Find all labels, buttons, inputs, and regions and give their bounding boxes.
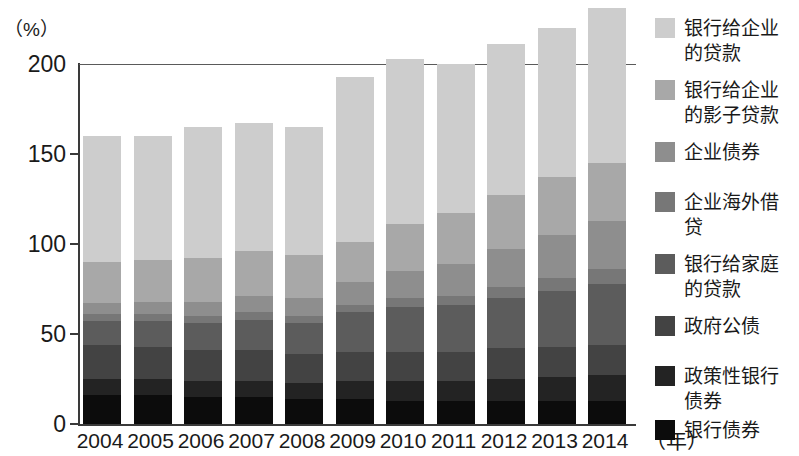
bar-segment bbox=[184, 323, 222, 350]
legend-swatch-overseas-borrowing bbox=[655, 192, 675, 212]
y-tick-label-100: 100 bbox=[4, 233, 66, 256]
bar-segment bbox=[184, 316, 222, 323]
legend-item-shadow-loans-to-enterprises[interactable]: 银行给企业 的影子贷款 bbox=[655, 78, 796, 128]
bar-2008 bbox=[285, 127, 323, 424]
legend-item-overseas-borrowing[interactable]: 企业海外借 贷 bbox=[655, 190, 796, 240]
bar-segment bbox=[184, 127, 222, 258]
bar-segment bbox=[437, 381, 475, 401]
bar-2011 bbox=[437, 64, 475, 424]
bar-2009 bbox=[336, 77, 374, 424]
legend-swatch-shadow-loans-to-enterprises bbox=[655, 80, 675, 100]
x-tick-label-2009: 2009 bbox=[325, 428, 381, 454]
bar-segment bbox=[538, 28, 576, 177]
bar-segment bbox=[588, 221, 626, 270]
y-tick-label-150: 150 bbox=[4, 143, 66, 166]
bar-segment bbox=[336, 399, 374, 424]
x-axis-line bbox=[78, 424, 636, 426]
x-tick-label-2014: 2014 bbox=[577, 428, 633, 454]
bar-segment bbox=[386, 381, 424, 401]
legend-label-bank-loans-to-households: 银行给家庭 的贷款 bbox=[684, 252, 796, 302]
bar-segment bbox=[487, 298, 525, 348]
bar-segment bbox=[235, 296, 273, 312]
x-tick-label-2006: 2006 bbox=[173, 428, 229, 454]
bar-segment bbox=[235, 350, 273, 381]
bar-segment bbox=[386, 352, 424, 381]
y-tick-label-200: 200 bbox=[4, 53, 66, 76]
bar-segment bbox=[386, 271, 424, 298]
bar-segment bbox=[83, 395, 121, 424]
legend-label-shadow-loans-to-enterprises: 银行给企业 的影子贷款 bbox=[684, 78, 796, 128]
legend-label-bank-bonds: 银行债券 bbox=[684, 418, 796, 443]
bar-segment bbox=[134, 379, 172, 395]
bar-segment bbox=[487, 379, 525, 401]
bar-segment bbox=[437, 296, 475, 305]
legend-swatch-bank-loans-to-households bbox=[655, 254, 675, 274]
legend-swatch-corporate-bonds bbox=[655, 142, 675, 162]
bar-2014 bbox=[588, 8, 626, 424]
x-tick-label-2004: 2004 bbox=[72, 428, 128, 454]
bar-2012 bbox=[487, 44, 525, 424]
bar-segment bbox=[235, 123, 273, 251]
x-tick-label-2012: 2012 bbox=[476, 428, 532, 454]
bar-segment bbox=[538, 177, 576, 235]
bar-segment bbox=[336, 77, 374, 243]
bar-segment bbox=[83, 303, 121, 314]
bar-segment bbox=[538, 291, 576, 347]
bar-segment bbox=[386, 307, 424, 352]
bar-segment bbox=[235, 320, 273, 351]
bar-segment bbox=[134, 347, 172, 379]
legend-label-corporate-bonds: 企业债券 bbox=[684, 140, 796, 165]
legend-item-policy-bank-bonds[interactable]: 政策性银行 债券 bbox=[655, 364, 796, 414]
bar-segment bbox=[83, 321, 121, 344]
bar-segment bbox=[235, 312, 273, 319]
bar-segment bbox=[487, 348, 525, 379]
bar-segment bbox=[285, 255, 323, 298]
bar-segment bbox=[487, 249, 525, 287]
bar-segment bbox=[437, 213, 475, 263]
bar-segment bbox=[285, 383, 323, 399]
bar-segment bbox=[83, 379, 121, 395]
x-tick-label-2008: 2008 bbox=[274, 428, 330, 454]
bar-segment bbox=[538, 377, 576, 400]
bar-segment bbox=[83, 262, 121, 303]
legend-label-policy-bank-bonds: 政策性银行 债券 bbox=[684, 364, 796, 414]
bar-segment bbox=[184, 381, 222, 397]
y-tick-label-50: 50 bbox=[4, 323, 66, 346]
bar-segment bbox=[285, 354, 323, 383]
bar-segment bbox=[285, 127, 323, 255]
legend-item-government-bonds[interactable]: 政府公债 bbox=[655, 314, 796, 339]
bar-segment bbox=[437, 264, 475, 296]
x-tick-label-2010: 2010 bbox=[375, 428, 431, 454]
bar-segment bbox=[285, 298, 323, 316]
plot-area bbox=[80, 0, 636, 424]
legend-swatch-bank-bonds bbox=[655, 420, 675, 440]
bar-segment bbox=[487, 44, 525, 195]
x-tick-label-2013: 2013 bbox=[527, 428, 583, 454]
legend-item-corporate-bonds[interactable]: 企业债券 bbox=[655, 140, 796, 165]
bar-segment bbox=[184, 397, 222, 424]
bar-2005 bbox=[134, 136, 172, 424]
bar-segment bbox=[336, 312, 374, 352]
bar-segment bbox=[538, 347, 576, 378]
legend-swatch-bank-loans-to-enterprises bbox=[655, 18, 675, 38]
bar-segment bbox=[83, 136, 121, 262]
bar-segment bbox=[336, 282, 374, 305]
bar-2006 bbox=[184, 127, 222, 424]
bar-segment bbox=[386, 59, 424, 225]
bar-segment bbox=[134, 314, 172, 321]
bar-segment bbox=[285, 323, 323, 354]
legend-swatch-policy-bank-bonds bbox=[655, 366, 675, 386]
y-tick-label-0: 0 bbox=[4, 413, 66, 436]
bar-segment bbox=[588, 375, 626, 400]
bar-2013 bbox=[538, 28, 576, 424]
bar-segment bbox=[235, 381, 273, 397]
bar-segment bbox=[487, 401, 525, 424]
legend-item-bank-loans-to-households[interactable]: 银行给家庭 的贷款 bbox=[655, 252, 796, 302]
bar-segment bbox=[588, 163, 626, 221]
legend-item-bank-loans-to-enterprises[interactable]: 银行给企业 的贷款 bbox=[655, 16, 796, 66]
legend: 银行给企业 的贷款银行给企业 的影子贷款企业债券企业海外借 贷银行给家庭 的贷款… bbox=[655, 6, 799, 446]
legend-item-bank-bonds[interactable]: 银行债券 bbox=[655, 418, 796, 443]
stacked-bar-chart-figure: （%） 200150100500 20042005200620072008200… bbox=[0, 0, 799, 456]
bar-segment bbox=[437, 64, 475, 213]
bar-segment bbox=[83, 314, 121, 321]
